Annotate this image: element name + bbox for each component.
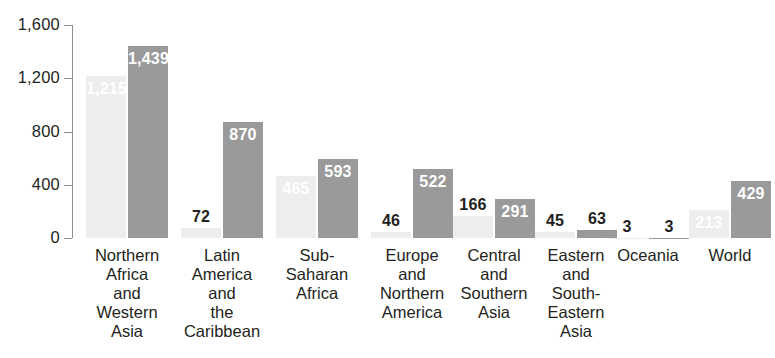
bar[interactable] [371, 232, 411, 238]
category-label: Sub-SaharanAfrica [269, 246, 365, 303]
bar-value-label: 465 [276, 180, 316, 198]
bar-value-label: 46 [371, 212, 411, 230]
bar-value-label: 522 [413, 173, 453, 191]
bar-group: 1,2151,439 [86, 18, 168, 238]
bar-value-label: 213 [689, 214, 729, 232]
bar-value-label: 166 [453, 196, 493, 214]
category-label-line: and [174, 284, 270, 303]
category-label-line: Latin [174, 246, 270, 265]
y-axis-tick-label: 1,600 [2, 15, 60, 34]
category-label-line: Caribbean [174, 322, 270, 341]
y-axis-tick [64, 238, 72, 239]
category-label-line: World [682, 246, 775, 265]
category-label-line: South- [528, 284, 624, 303]
y-axis-tick [64, 78, 72, 79]
bar-group: 4563 [535, 18, 617, 238]
bar-group: 72870 [181, 18, 263, 238]
bar-group: 465593 [276, 18, 358, 238]
category-label-line: Asia [528, 322, 624, 341]
y-axis-tick-label: 400 [2, 175, 60, 194]
category-label-line: Northern [79, 246, 175, 265]
bar-value-label: 1,215 [86, 80, 126, 98]
bar-value-label: 593 [318, 163, 358, 181]
category-label: NorthernAfricaandWesternAsia [79, 246, 175, 341]
category-label-line: the [174, 303, 270, 322]
category-label-line: Eastern [528, 303, 624, 322]
category-label-line: Africa [79, 265, 175, 284]
bar-value-label: 429 [731, 185, 771, 203]
category-axis-labels: NorthernAfricaandWesternAsiaLatinAmerica… [73, 246, 745, 356]
bar[interactable] [453, 216, 493, 238]
category-label-line: Africa [269, 284, 365, 303]
bar-value-label: 870 [223, 126, 263, 144]
category-label: LatinAmericaandtheCaribbean [174, 246, 270, 341]
bar-value-label: 72 [181, 208, 221, 226]
category-label-line: and [79, 284, 175, 303]
bar[interactable] [181, 228, 221, 238]
category-label-line: America [174, 265, 270, 284]
bar-group: 166291 [453, 18, 535, 238]
y-axis-tick-label: 1,200 [2, 68, 60, 87]
category-label-line: and [528, 265, 624, 284]
bar[interactable] [535, 232, 575, 238]
bar[interactable] [128, 46, 168, 238]
y-axis-tick [64, 25, 72, 26]
bar-value-label: 3 [607, 218, 647, 236]
y-axis-tick-label: 0 [2, 228, 60, 247]
plot-area: 1,2151,439728704655934652216629145633321… [73, 18, 745, 238]
y-axis-tick [64, 132, 72, 133]
bar-value-label: 291 [495, 203, 535, 221]
bar-group: 213429 [689, 18, 771, 238]
bar-value-label: 45 [535, 212, 575, 230]
bar-group: 46522 [371, 18, 453, 238]
y-axis-tick-label: 800 [2, 122, 60, 141]
bar-value-label: 1,439 [128, 50, 168, 68]
category-label-line: Western [79, 303, 175, 322]
bar-value-label: 3 [649, 218, 689, 236]
bar[interactable] [86, 76, 126, 238]
bar-group: 33 [607, 18, 689, 238]
category-label-line: Asia [79, 322, 175, 341]
category-label-line: Sub- [269, 246, 365, 265]
category-label: World [682, 246, 775, 265]
category-label-line: Saharan [269, 265, 365, 284]
y-axis-tick [64, 185, 72, 186]
